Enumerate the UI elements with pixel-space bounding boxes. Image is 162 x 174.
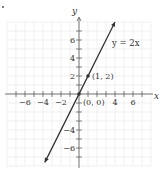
x-tick-label: −6 xyxy=(19,98,31,107)
y-tick-label: 2 xyxy=(70,72,75,81)
y-axis-label: y xyxy=(71,6,78,16)
y-tick-label: 6 xyxy=(70,36,75,45)
point-marker xyxy=(86,74,90,78)
x-tick-label: −4 xyxy=(37,98,49,107)
y-tick-label: −4 xyxy=(63,126,75,135)
line-segment xyxy=(45,22,115,162)
y-tick-label: 4 xyxy=(70,54,75,63)
point-marker xyxy=(77,92,81,96)
line-y-equals-2x xyxy=(45,22,115,162)
x-tick-label: 6 xyxy=(130,98,135,107)
equation-label: y = 2x xyxy=(111,38,140,48)
points: (0, 0)(1, 2) xyxy=(77,72,113,107)
y-tick-label: −6 xyxy=(63,144,75,153)
x-tick-label: 4 xyxy=(112,98,117,107)
graph-y-equals-2x: −6−4−246642−4−6 (0, 0)(1, 2) x y y = 2x xyxy=(0,0,162,174)
x-tick-label: −2 xyxy=(55,98,67,107)
point-label: (0, 0) xyxy=(83,98,105,107)
x-axis-label: x xyxy=(154,91,159,101)
point-label: (1, 2) xyxy=(92,72,114,81)
